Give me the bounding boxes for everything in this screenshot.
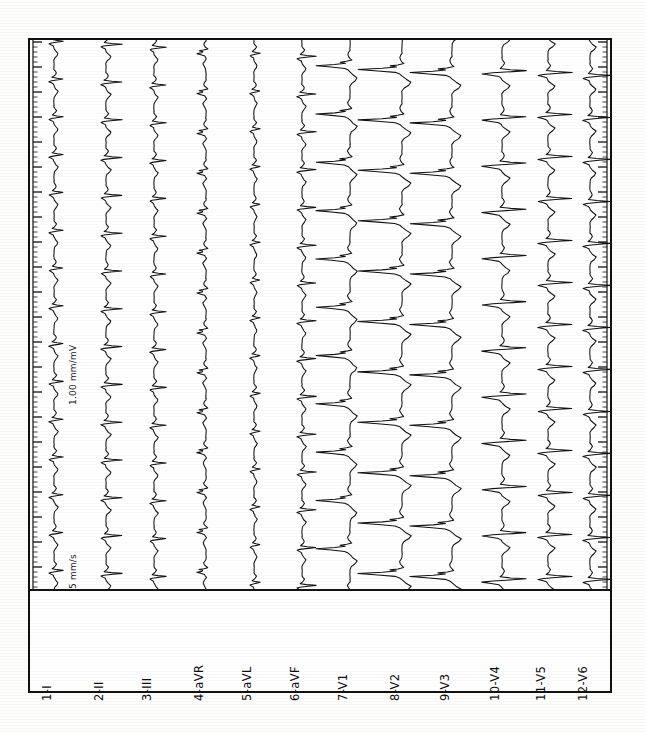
lead-trace xyxy=(49,40,63,590)
lead-label-6-avf: 6-aVF xyxy=(288,666,302,701)
lead-label-3-iii: 3-III xyxy=(140,677,154,701)
lead-trace xyxy=(250,40,260,590)
lead-label-9-v3: 9-V3 xyxy=(438,673,452,701)
lead-label-2-ii: 2-II xyxy=(92,681,106,701)
lead-label-1-i: 1-I xyxy=(40,685,54,701)
lead-label-10-v4: 10-V4 xyxy=(488,666,502,701)
lead-trace xyxy=(583,40,610,590)
lead-trace xyxy=(482,40,526,590)
lead-trace xyxy=(197,40,208,590)
lead-label-8-v2: 8-V2 xyxy=(388,673,402,701)
ecg-plot-area: 1.00 mm/mV 25 mm/s xyxy=(30,40,610,590)
lead-label-5-avl: 5-aVL xyxy=(240,666,254,701)
lead-trace xyxy=(150,40,166,590)
lead-label-band: 1-I2-II3-III4-aVR5-aVL6-aVF7-V18-V29-V31… xyxy=(30,591,610,691)
lead-trace xyxy=(297,40,316,590)
lead-label-11-v5: 11-V5 xyxy=(534,666,548,701)
lead-label-7-v1: 7-V1 xyxy=(336,673,350,701)
lead-label-12-v6: 12-V6 xyxy=(576,666,590,701)
lead-trace xyxy=(101,40,122,590)
gain-annotation: 1.00 mm/mV xyxy=(68,345,78,405)
lead-trace xyxy=(358,40,411,590)
speed-annotation: 25 mm/s xyxy=(68,554,78,590)
lead-trace xyxy=(316,40,357,590)
ecg-frame: 1.00 mm/mV 25 mm/s 1-I2-II3-III4-aVR5-aV… xyxy=(28,38,612,693)
lead-label-4-avr: 4-aVR xyxy=(192,665,206,701)
lead-trace xyxy=(538,40,572,590)
ecg-traces xyxy=(30,40,610,590)
lead-trace xyxy=(410,40,461,590)
ecg-sheet: 1.00 mm/mV 25 mm/s 1-I2-II3-III4-aVR5-aV… xyxy=(0,0,645,732)
